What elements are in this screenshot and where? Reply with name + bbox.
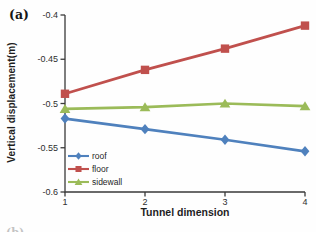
legend-label-floor: floor [92,164,109,174]
roof-marker [301,146,310,156]
y-tick-label: -0.5 [42,99,58,109]
legend-label-roof: roof [92,151,107,161]
next-figure-label-cropped: (b) [6,226,24,232]
line-chart-figure: (a) Vertical displacement(m) -0.4-0.45-0… [0,0,316,232]
legend: roof floor sidewall [67,149,122,189]
roof-marker [141,124,150,134]
roof-marker [221,135,230,145]
x-axis-title: Tunnel dimension [65,206,305,218]
legend-item-roof: roof [67,149,122,162]
floor-square-marker-icon [67,164,90,174]
sidewall-triangle-marker-icon [67,177,90,187]
floor-marker [301,21,309,29]
floor-line [65,26,305,94]
y-tick-label: -0.45 [37,54,58,64]
roof-legend-marker [75,152,81,159]
y-tick-label: -0.6 [42,187,58,197]
legend-label-sidewall: sidewall [92,177,122,187]
y-tick-label: -0.55 [37,143,58,153]
roof-marker [61,113,70,123]
floor-marker [141,66,149,74]
legend-item-sidewall: sidewall [67,176,122,189]
sidewall-line [65,104,305,109]
chart-canvas: -0.4-0.45-0.5-0.55-0.61234 [0,0,316,232]
roof-line [65,119,305,152]
y-tick-label: -0.4 [42,10,58,20]
floor-legend-marker [75,166,81,172]
legend-item-floor: floor [67,162,122,175]
floor-marker [61,90,69,98]
floor-marker [221,44,229,52]
roof-diamond-marker-icon [67,151,90,161]
